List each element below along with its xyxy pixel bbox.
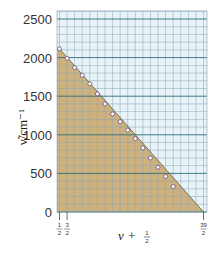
data-point	[111, 112, 115, 116]
data-point	[73, 66, 77, 70]
data-point	[88, 82, 92, 86]
x-title-v: v	[118, 228, 124, 243]
x-tick-label-numerator: 39	[200, 222, 207, 228]
data-point	[126, 128, 130, 132]
data-point	[118, 120, 122, 124]
y-tick-label: 2000	[23, 51, 52, 66]
x-tick-label-numerator: 1	[58, 222, 62, 228]
x-tick-label-denominator: 2	[202, 230, 206, 236]
x-tick-label-denominator: 2	[65, 230, 69, 236]
birge-sponer-chart: 05001000150020002500 1232392 ν̃/cm⁻¹ v +…	[0, 0, 218, 253]
x-tick-label-numerator: 3	[65, 222, 69, 228]
x-title-plus: +	[128, 228, 135, 243]
data-point	[133, 137, 137, 141]
data-point	[58, 47, 62, 51]
data-point	[65, 56, 69, 60]
data-point	[148, 156, 152, 160]
x-axis-title: v + 1 2	[118, 228, 150, 244]
y-tick-label: 1500	[23, 89, 52, 104]
y-tick-label: 2500	[23, 12, 52, 27]
y-axis-title: ν̃/cm⁻¹	[15, 109, 30, 145]
data-point	[95, 92, 99, 96]
x-title-num: 1	[145, 230, 149, 236]
data-point	[141, 146, 145, 150]
y-tick-label: 0	[45, 205, 52, 220]
data-point	[164, 174, 168, 178]
y-tick-label: 500	[30, 166, 52, 181]
data-point	[156, 165, 160, 169]
data-point	[80, 73, 84, 77]
x-title-den: 2	[145, 238, 149, 244]
x-tick-label-denominator: 2	[58, 230, 62, 236]
data-point	[103, 102, 107, 106]
data-point	[171, 185, 175, 189]
